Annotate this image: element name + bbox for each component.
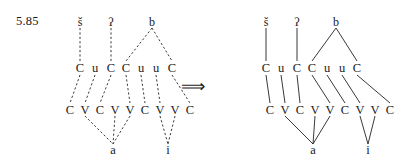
right-template-symbol: u xyxy=(339,62,345,75)
left-template-symbol: C xyxy=(76,62,84,75)
left-vocalic-symbol: a xyxy=(110,144,116,157)
left-melody-to-template-association-line xyxy=(152,28,172,61)
right-template-to-skeleton-association-line xyxy=(327,75,345,103)
right-skeleton-symbol: V xyxy=(370,104,379,117)
right-skeleton-symbol: C xyxy=(296,104,304,117)
left-template-to-skeleton-association-line xyxy=(100,75,111,103)
left-template-to-skeleton-association-line xyxy=(141,75,145,103)
right-melody-to-template-association-line xyxy=(336,28,357,61)
left-template-to-skeleton-association-line xyxy=(70,75,80,103)
right-template-symbol: u xyxy=(278,62,284,75)
right-vocalic-symbol: a xyxy=(310,144,316,157)
right-melody-to-template-association-line xyxy=(312,28,336,61)
left-skeleton-symbol: C xyxy=(66,104,74,117)
left-template-symbol: C xyxy=(107,62,115,75)
right-skeleton-symbol: C xyxy=(341,104,349,117)
left-template-to-skeleton-association-line xyxy=(156,75,160,103)
right-template-symbol: C xyxy=(353,62,361,75)
right-skeleton-symbol: V xyxy=(310,104,319,117)
right-skeleton-to-vocalic-association-line xyxy=(360,116,368,144)
left-skeleton-to-vocalic-association-line xyxy=(113,116,115,144)
right-template-to-skeleton-association-line xyxy=(281,75,285,103)
left-skeleton-symbol: V xyxy=(170,104,179,117)
right-skeleton-to-vocalic-association-line xyxy=(313,116,330,144)
implies-arrow-icon: ⟹ xyxy=(181,76,205,97)
left-template-symbol: u xyxy=(92,62,98,75)
left-template-symbol: C xyxy=(168,62,176,75)
left-skeleton-to-vocalic-association-line xyxy=(168,116,175,144)
left-skeleton-symbol: V xyxy=(80,104,89,117)
right-skeleton-to-vocalic-association-line xyxy=(313,116,315,144)
left-template-symbol: C xyxy=(122,62,130,75)
right-skeleton-to-vocalic-association-line xyxy=(368,116,375,144)
left-skeleton-symbol: V xyxy=(110,104,119,117)
left-melody-symbol: ʔ xyxy=(108,16,113,28)
right-template-to-skeleton-association-line xyxy=(342,75,360,103)
right-skeleton-symbol: V xyxy=(325,104,334,117)
left-skeleton-to-vocalic-association-line xyxy=(113,116,130,144)
right-template-symbol: u xyxy=(324,62,330,75)
left-vocalic-symbol: i xyxy=(166,144,169,157)
right-melody-symbol: b xyxy=(333,16,339,28)
left-melody-symbol: b xyxy=(149,16,155,28)
right-skeleton-symbol: C xyxy=(266,104,274,117)
right-template-to-skeleton-association-line xyxy=(266,75,270,103)
left-template-to-skeleton-association-line xyxy=(85,75,95,103)
left-melody-symbol: š xyxy=(78,16,83,28)
right-skeleton-symbol: V xyxy=(280,104,289,117)
right-vocalic-symbol: i xyxy=(366,144,369,157)
right-skeleton-symbol: C xyxy=(386,104,394,117)
right-template-to-skeleton-association-line xyxy=(357,75,390,103)
left-skeleton-to-vocalic-association-line xyxy=(160,116,168,144)
left-template-symbol: u xyxy=(153,62,159,75)
left-skeleton-symbol: C xyxy=(96,104,104,117)
right-template-symbol: C xyxy=(262,62,270,75)
left-melody-to-template-association-line xyxy=(126,28,152,61)
left-skeleton-symbol: V xyxy=(155,104,164,117)
right-template-symbol: C xyxy=(308,62,316,75)
left-skeleton-symbol: V xyxy=(125,104,134,117)
right-melody-symbol: š xyxy=(264,16,269,28)
left-skeleton-symbol: C xyxy=(186,104,194,117)
left-skeleton-to-vocalic-association-line xyxy=(85,116,113,144)
right-template-to-skeleton-association-line xyxy=(312,75,330,103)
right-skeleton-symbol: V xyxy=(355,104,364,117)
left-template-symbol: u xyxy=(138,62,144,75)
right-template-to-skeleton-association-line xyxy=(297,75,300,103)
right-template-symbol: C xyxy=(293,62,301,75)
autosegmental-figure: 5.85 šʔbCuCCuuCCVCVVCVVCaišʔbCuCCuuCCVCV… xyxy=(0,0,407,165)
right-melody-symbol: ʔ xyxy=(294,16,299,28)
left-skeleton-symbol: C xyxy=(141,104,149,117)
right-skeleton-to-vocalic-association-line xyxy=(285,116,313,144)
left-template-to-skeleton-association-line xyxy=(126,75,130,103)
